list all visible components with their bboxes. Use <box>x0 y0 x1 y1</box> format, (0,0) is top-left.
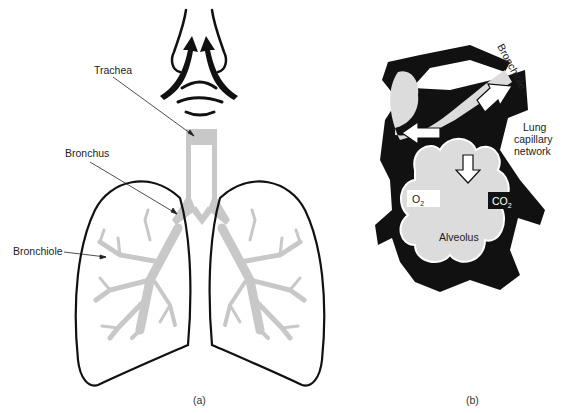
label-lung-capillary: Lung <box>523 122 546 133</box>
left-bronchiole-tree <box>96 210 178 338</box>
nose-icon <box>172 10 226 115</box>
label-bronchiole-a: Bronchiole <box>13 246 63 257</box>
airway-tree <box>172 129 230 225</box>
label-lung-capillary-2: capillary <box>514 134 553 145</box>
label-co2: CO2 <box>492 196 512 209</box>
label-trachea: Trachea <box>94 65 132 76</box>
label-lung-capillary-3: network <box>514 146 551 157</box>
label-bronchus: Bronchus <box>65 148 109 159</box>
airflow-arrow-icon <box>160 36 238 100</box>
label-o2: O2 <box>412 194 424 207</box>
respiratory-diagram <box>0 0 564 413</box>
label-alveolus: Alveolus <box>439 232 479 243</box>
right-bronchiole-tree <box>222 210 304 338</box>
caption-a: (a) <box>193 395 206 406</box>
caption-b: (b) <box>466 395 479 406</box>
